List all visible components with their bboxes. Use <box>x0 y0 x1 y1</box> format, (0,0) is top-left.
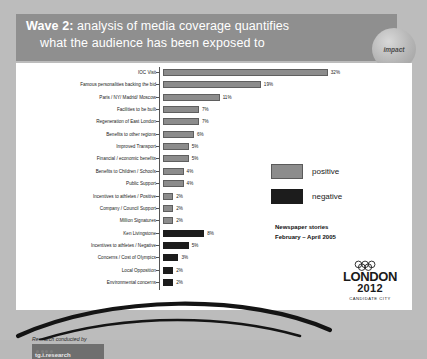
legend-label-negative: negative <box>312 192 342 201</box>
bar-wrapper: 5% <box>163 241 198 250</box>
bar-wrapper: 32% <box>163 68 340 77</box>
bar-value-label: 6% <box>194 132 204 137</box>
bar-row: Company / Council Support2% <box>16 204 183 213</box>
bar-category-label: Benefits to Children / Schools <box>16 167 160 176</box>
bar-negative <box>163 267 173 274</box>
bar-positive <box>163 118 199 125</box>
bar-value-label: 2% <box>173 280 183 285</box>
bar-category-label: Million Signatures <box>16 216 160 225</box>
bar-wrapper: 7% <box>163 105 209 114</box>
bar-category-label: Regeneration of East London <box>16 117 160 126</box>
bar-row: Famous personalities backing the bid19% <box>16 80 273 89</box>
slide-header: Wave 2: analysis of media coverage quant… <box>16 14 397 61</box>
impact-badge-label: impact <box>384 46 405 53</box>
bar-wrapper: 8% <box>163 229 214 238</box>
research-agency-logo: tg.i.research <box>32 344 104 359</box>
bar-value-label: 4% <box>184 181 194 186</box>
bar-negative <box>163 242 189 249</box>
bar-category-label: Public Support <box>16 179 160 188</box>
bar-row: Benefits to Children / Schools4% <box>16 167 193 176</box>
bar-category-label: Facilities to be built <box>16 105 160 114</box>
bar-value-label: 2% <box>173 206 183 211</box>
bar-category-label: IOC Visit <box>16 68 160 77</box>
bar-category-label: Environmental concerns <box>16 278 160 287</box>
legend-item-positive: positive <box>271 164 342 179</box>
bar-wrapper: 7% <box>163 117 209 126</box>
bar-row: Local Opposition2% <box>16 266 183 275</box>
bar-row: Environmental concerns2% <box>16 278 183 287</box>
bar-wrapper: 19% <box>163 80 273 89</box>
bar-negative <box>163 230 204 237</box>
header-line-1: Wave 2: analysis of media coverage quant… <box>26 18 387 35</box>
bar-value-label: 11% <box>220 95 232 100</box>
bar-positive <box>163 180 184 187</box>
bar-positive <box>163 94 220 101</box>
bar-category-label: Benefits to other regions <box>16 130 160 139</box>
bar-wrapper: 2% <box>163 266 183 275</box>
bar-row: IOC Visit32% <box>16 68 340 77</box>
bar-row: Benefits to other regions6% <box>16 130 204 139</box>
legend-swatch-positive <box>271 164 303 179</box>
header-line-2: what the audience has been exposed to <box>26 35 387 52</box>
bar-category-label: Incentives to athletes / Negative <box>16 241 160 250</box>
bar-wrapper: 2% <box>163 216 183 225</box>
bar-positive <box>163 106 199 113</box>
annotation-line-2: February – April 2005 <box>275 233 336 243</box>
bar-value-label: 2% <box>173 268 183 273</box>
bar-positive <box>163 205 173 212</box>
bar-row: Incentives to athletes / Positive2% <box>16 192 183 201</box>
bar-wrapper: 6% <box>163 130 204 139</box>
legend-label-positive: positive <box>312 167 339 176</box>
bar-row: Incentives to athletes / Negative5% <box>16 241 198 250</box>
bar-value-label: 8% <box>204 231 214 236</box>
bar-positive <box>163 143 189 150</box>
bar-wrapper: 5% <box>163 142 198 151</box>
bar-positive <box>163 217 173 224</box>
header-line-1-rest: analysis of media coverage quantifies <box>73 19 289 33</box>
decorative-swoosh <box>0 296 427 340</box>
bar-row: Regeneration of East London7% <box>16 117 209 126</box>
header-wave-label: Wave 2: <box>26 19 73 33</box>
bar-wrapper: 2% <box>163 278 183 287</box>
bar-row: Facilities to be built7% <box>16 105 209 114</box>
bar-row: Improved Transport5% <box>16 142 198 151</box>
bar-positive <box>163 193 173 200</box>
bar-wrapper: 4% <box>163 179 193 188</box>
bar-category-label: Paris / NY/ Madrid/ Moscow <box>16 93 160 102</box>
bar-wrapper: 2% <box>163 204 183 213</box>
bar-wrapper: 2% <box>163 192 183 201</box>
bar-category-label: Company / Council Support <box>16 204 160 213</box>
bar-wrapper: 11% <box>163 93 232 102</box>
bar-category-label: Improved Transport <box>16 142 160 151</box>
legend-item-negative: negative <box>271 189 342 204</box>
bar-positive <box>163 131 194 138</box>
bar-positive <box>163 168 184 175</box>
legend-swatch-negative <box>271 189 303 204</box>
bar-positive <box>163 155 189 162</box>
bar-positive <box>163 69 328 76</box>
bar-value-label: 4% <box>184 169 194 174</box>
bar-wrapper: 4% <box>163 167 193 176</box>
agency-dots-icon <box>36 339 54 357</box>
bar-row: Ken Livingstone8% <box>16 229 214 238</box>
bar-row: Concerns / Cost of Olympics3% <box>16 253 188 262</box>
bar-value-label: 7% <box>199 107 209 112</box>
chart-annotation: Newspaper stories February – April 2005 <box>275 223 336 242</box>
chart-legend: positive negative <box>271 164 342 214</box>
bar-category-label: Ken Livingstone <box>16 229 160 238</box>
logo-year: 2012 <box>357 283 383 294</box>
bar-value-label: 32% <box>328 70 340 75</box>
bar-wrapper: 3% <box>163 253 188 262</box>
bar-category-label: Financial / economic benefits <box>16 154 160 163</box>
bar-row: Paris / NY/ Madrid/ Moscow11% <box>16 93 232 102</box>
bar-wrapper: 5% <box>163 154 198 163</box>
bar-value-label: 5% <box>189 243 199 248</box>
bar-value-label: 19% <box>261 82 273 87</box>
bar-value-label: 2% <box>173 194 183 199</box>
bar-value-label: 5% <box>189 144 199 149</box>
bar-category-label: Famous personalities backing the bid <box>16 80 160 89</box>
bar-value-label: 5% <box>189 156 199 161</box>
bar-row: Financial / economic benefits5% <box>16 154 198 163</box>
bar-negative <box>163 254 178 261</box>
